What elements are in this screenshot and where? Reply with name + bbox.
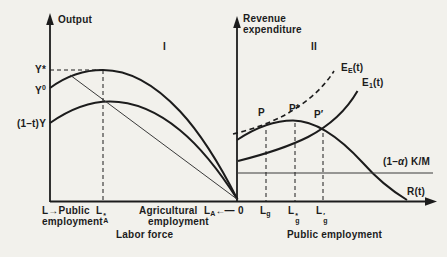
- lg-prime-tick-label: L′g: [316, 205, 328, 223]
- after-tax-output-label: (1–t)Y: [0, 118, 46, 129]
- ee-paren: (t): [353, 62, 364, 73]
- lg-tick-label: Lg: [260, 205, 271, 219]
- agricultural-label: Agricultural: [139, 205, 198, 216]
- e1-base: E: [362, 77, 369, 88]
- x-axis-arrowhead-icon: [425, 197, 437, 205]
- ee-curve-label: EE(t): [341, 62, 363, 76]
- tangent-ray-line: [70, 75, 238, 200]
- lg-star-subscript: g: [295, 218, 299, 223]
- lg-subscript: g: [266, 210, 270, 217]
- two-panel-economics-diagram: Output I Revenue expenditure II Y* Y0 (1…: [0, 0, 447, 257]
- public-employment-word: employment: [42, 216, 103, 227]
- public-employment-caption: Public employment: [287, 229, 382, 240]
- km-constraint-label: (1–α) K/M: [383, 156, 430, 167]
- la-star-scripts: *A: [103, 213, 108, 223]
- right-y-axis-title: Revenue expenditure: [243, 13, 302, 35]
- km-post: ) K/M: [404, 156, 429, 167]
- point-p-star-label: P*: [289, 103, 300, 114]
- revenue-curve-rt: [237, 121, 407, 201]
- output-curve-pre-tax: [50, 70, 238, 200]
- e1-paren: (t): [373, 77, 384, 88]
- y0-superscript: 0: [42, 84, 46, 91]
- lg-star-base: L: [288, 205, 294, 216]
- rt-curve-label: R(t): [407, 186, 425, 197]
- la-star-base: L: [96, 205, 102, 216]
- la-star-subscript: A: [103, 218, 108, 223]
- lg-prime-subscript: g: [323, 218, 327, 223]
- la-left-arrow-icon: ←—: [216, 205, 234, 216]
- right-y-axis-title-line2: expenditure: [243, 24, 302, 35]
- la-star-tick-label: L*A: [96, 205, 109, 223]
- l-public-label: L→Public: [42, 205, 90, 216]
- km-pre: (1–: [383, 156, 398, 167]
- y0-base: Y: [35, 85, 42, 96]
- panel-one-label: I: [163, 41, 166, 52]
- point-p-prime-label: P′: [314, 109, 323, 120]
- agricultural-employment-word: employment: [148, 216, 209, 227]
- right-y-axis-arrowhead-icon: [233, 16, 241, 28]
- lg-prime-scripts: ′g: [323, 213, 327, 223]
- y0-label: Y0: [16, 82, 46, 96]
- left-y-axis-arrowhead-icon: [46, 13, 54, 25]
- labor-force-caption: Labor force: [116, 229, 173, 240]
- left-y-axis-title: Output: [58, 14, 92, 25]
- panel-two-label: II: [311, 41, 317, 52]
- lg-prime-base: L: [316, 205, 322, 216]
- la-tick-label: LA←—: [204, 205, 234, 219]
- expenditure-curve-e1: [238, 91, 358, 161]
- right-y-axis-title-line1: Revenue: [243, 13, 286, 24]
- ystar-label: Y*: [16, 64, 46, 75]
- point-p-label: P: [258, 107, 265, 118]
- expenditure-curve-ee-dashed: [233, 71, 334, 134]
- e1-curve-label: E1(t): [362, 77, 384, 91]
- lg-star-tick-label: L*g: [288, 205, 300, 223]
- lg-star-scripts: *g: [295, 213, 299, 223]
- origin-zero-label: 0: [236, 205, 246, 216]
- ee-base: E: [341, 62, 348, 73]
